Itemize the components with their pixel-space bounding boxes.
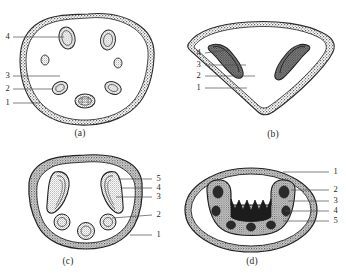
panel-a-drawing [0, 0, 173, 139]
figure-root: 4 3 2 1 (a) [0, 0, 346, 277]
lacuna-lower-right [267, 221, 276, 229]
lacuna-upper-right [279, 186, 289, 198]
round-bundle-center [78, 223, 95, 240]
panel-a-label-3: 3 [3, 71, 12, 80]
panel-d-caption: (d) [232, 256, 272, 266]
panel-c: 5 4 3 2 1 (c) [0, 139, 173, 277]
round-bundle-right [100, 214, 116, 230]
lacuna-lower-left [227, 221, 236, 229]
panel-a-caption: (a) [60, 128, 100, 138]
panel-d: 1 2 3 4 5 (d) [173, 139, 346, 277]
bundle-bottom-center [75, 94, 95, 108]
panel-b: 4 3 2 1 (b) [173, 0, 346, 139]
panel-d-label-3: 3 [331, 196, 340, 205]
lacuna-upper-left [213, 186, 223, 198]
bundle-small-left [41, 55, 49, 65]
panel-d-label-4: 4 [331, 206, 340, 215]
panel-c-label-2: 2 [154, 210, 163, 219]
round-bundle-left [54, 214, 70, 230]
panel-b-label-1: 1 [194, 83, 203, 92]
panel-c-caption: (c) [48, 256, 88, 266]
panel-a-label-2: 2 [3, 84, 12, 93]
panel-d-label-5: 5 [331, 216, 340, 225]
panel-b-label-2: 2 [194, 71, 203, 80]
panel-b-label-3: 3 [194, 60, 203, 69]
panel-d-label-1: 1 [331, 167, 340, 176]
panel-b-caption: (b) [253, 129, 293, 139]
panel-a-label-4: 4 [3, 32, 12, 41]
panel-d-label-2: 2 [331, 185, 340, 194]
bundle-small-right [114, 58, 122, 68]
panel-b-label-4: 4 [194, 48, 203, 57]
lacuna-mid-left [212, 206, 220, 216]
panel-a-label-1: 1 [3, 98, 12, 107]
panel-c-label-3: 3 [154, 192, 163, 201]
lacuna-lower-center [247, 223, 256, 231]
panel-c-label-1: 1 [154, 230, 163, 239]
panel-a: 4 3 2 1 (a) [0, 0, 173, 139]
